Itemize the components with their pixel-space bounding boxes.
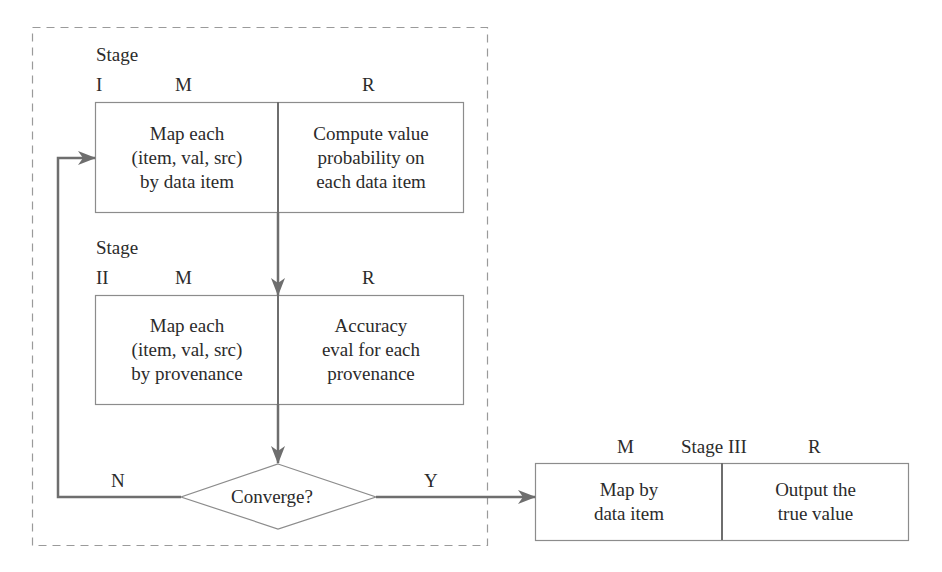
stage2-numeral: II (96, 268, 109, 287)
stage1-reduce-text: Compute value probability on each data i… (279, 103, 463, 212)
yes-label: Y (424, 471, 438, 490)
stage3-map-line: Map by (594, 478, 664, 502)
stage1-map-text: Map each (item, val, src) by data item (96, 103, 278, 212)
stage1-reduce-line: probability on (313, 146, 429, 170)
stage3-reduce-line: Output the (775, 478, 856, 502)
stage3-map-label: M (617, 437, 634, 456)
stage3-reduce-label: R (808, 437, 821, 456)
no-label: N (111, 471, 125, 490)
stage1-reduce-line: Compute value (313, 122, 429, 146)
stage1-map-line: by data item (132, 170, 243, 194)
stage2-stage-label: Stage (96, 238, 138, 257)
stage3-stage-label: Stage III (681, 437, 747, 456)
stage1-map-line: Map each (132, 122, 243, 146)
stage2-map-line: by provenance (131, 362, 242, 386)
stage3-map-text: Map by data item (536, 464, 722, 540)
stage1-map-line: (item, val, src) (132, 146, 243, 170)
decision-text: Converge? (231, 487, 313, 506)
stage2-reduce-line: Accuracy (322, 314, 420, 338)
stage1-map-label: M (175, 75, 192, 94)
stage1-reduce-label: R (362, 75, 375, 94)
stage2-reduce-line: eval for each (322, 338, 420, 362)
stage2-map-line: Map each (131, 314, 242, 338)
stage3-map-line: data item (594, 502, 664, 526)
stage3-reduce-line: true value (775, 502, 856, 526)
stage1-numeral: I (96, 75, 102, 94)
stage2-map-label: M (175, 268, 192, 287)
stage1-stage-label: Stage (96, 45, 138, 64)
stage3-reduce-text: Output the true value (723, 464, 908, 540)
stage2-reduce-label: R (362, 268, 375, 287)
stage2-reduce-line: provenance (322, 362, 420, 386)
stage2-map-text: Map each (item, val, src) by provenance (96, 296, 278, 404)
stage1-reduce-line: each data item (313, 170, 429, 194)
stage2-map-line: (item, val, src) (131, 338, 242, 362)
stage2-reduce-text: Accuracy eval for each provenance (279, 296, 463, 404)
